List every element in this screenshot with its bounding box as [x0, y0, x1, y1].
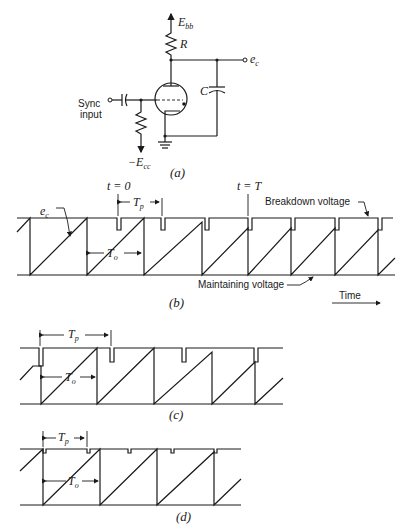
bias-label: −Ecc — [128, 155, 151, 171]
caption-a: (a) — [170, 165, 185, 180]
sawtooth-trace-d — [20, 449, 241, 505]
capacitor-label: C — [200, 84, 209, 98]
breakdown-voltage-label: Breakdown voltage — [265, 196, 350, 207]
to-label-d: To — [68, 474, 79, 490]
supply-label: Ebb — [177, 15, 193, 31]
sync-input-label-line2: input — [80, 109, 102, 120]
to-label-b: To — [107, 246, 118, 262]
ec-label: ec — [40, 204, 49, 220]
sync-input-terminal-icon — [108, 98, 112, 102]
waveform-c: Tp To (c) — [20, 327, 283, 422]
breakdown-voltage-line — [17, 218, 393, 230]
circuit-diagram: Ebb R ec C — [78, 14, 259, 180]
output-terminal-icon — [243, 58, 247, 62]
maintaining-voltage-label: Maintaining voltage — [198, 279, 285, 290]
tp-label-b: Tp — [133, 195, 144, 211]
grid-resistor-icon — [136, 100, 146, 140]
sync-input-label-line1: Sync — [78, 98, 100, 109]
thyratron-tube-icon — [155, 83, 187, 115]
caption-d: (d) — [176, 509, 191, 524]
time-axis-label: Time — [339, 290, 361, 301]
caption-b: (b) — [169, 295, 184, 310]
tT-label: t = T — [237, 179, 262, 193]
sawtooth-trace-c — [20, 348, 283, 404]
resistor-r-icon — [166, 30, 176, 60]
ground-icon — [158, 142, 172, 148]
output-label: ec — [250, 52, 259, 68]
waveform-b: ec t = 0 Tp t = T To Breakdown voltage M… — [17, 179, 395, 310]
relaxation-oscillator-figure: Ebb R ec C — [0, 0, 401, 528]
to-label-c: To — [65, 370, 76, 386]
sawtooth-trace — [17, 218, 395, 275]
tp-label-c: Tp — [68, 327, 79, 343]
t0-label: t = 0 — [107, 179, 130, 193]
resistor-label: R — [179, 37, 188, 51]
tp-label-d: Tp — [58, 430, 69, 446]
waveform-d: Tp To (d) — [20, 430, 241, 524]
caption-c: (c) — [169, 407, 183, 422]
